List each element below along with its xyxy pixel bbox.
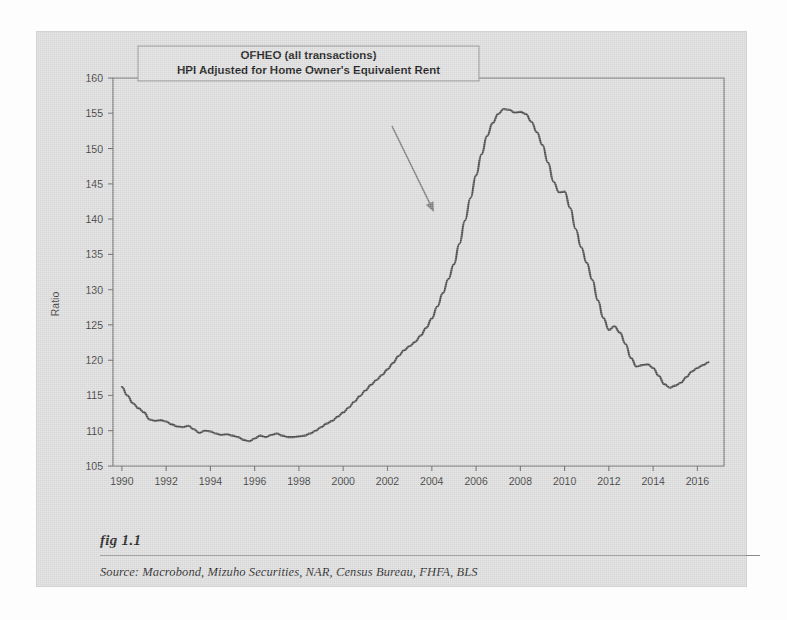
y-tick-label: 150	[85, 143, 103, 155]
figure-caption-block: fig 1.1 Source: Macrobond, Mizuho Securi…	[100, 532, 760, 580]
legend-line-1: OFHEO (all transactions)	[240, 49, 376, 61]
x-tick-label: 1998	[287, 475, 311, 487]
y-tick-label: 160	[85, 72, 103, 84]
axis-frame	[113, 78, 724, 466]
x-tick-label: 2010	[553, 475, 577, 487]
legend-box: OFHEO (all transactions) HPI Adjusted fo…	[138, 46, 479, 81]
x-tick-label: 2000	[332, 475, 356, 487]
figure-number-label: fig 1.1	[100, 532, 760, 549]
series-line-hpi-adjusted	[122, 109, 709, 441]
x-tick-label: 2002	[376, 475, 400, 487]
x-tick-label: 2004	[420, 475, 444, 487]
x-tick-label: 1994	[199, 475, 223, 487]
y-tick-label: 130	[85, 284, 103, 296]
x-tick-label: 1992	[154, 475, 178, 487]
x-tick-label: 2014	[641, 475, 665, 487]
caption-divider	[100, 555, 760, 556]
y-tick-label: 140	[85, 213, 103, 225]
legend-line-2: HPI Adjusted for Home Owner's Equivalent…	[177, 64, 440, 76]
y-tick-label: 135	[85, 248, 103, 260]
annotation-arrow-icon	[392, 126, 430, 204]
y-axis-ticks: 105110115120125130135140145150155160	[85, 72, 113, 472]
y-tick-label: 155	[85, 107, 103, 119]
x-axis-ticks: 1990199219941996199820002002200420062008…	[110, 466, 709, 487]
figure-source-text: Source: Macrobond, Mizuho Securities, NA…	[100, 565, 760, 580]
y-tick-label: 110	[86, 425, 103, 437]
y-tick-label: 120	[85, 354, 103, 366]
chart-axes	[113, 78, 724, 466]
x-tick-label: 1996	[243, 475, 267, 487]
data-series-group	[122, 109, 709, 441]
hpi-ratio-line-chart: 105110115120125130135140145150155160 199…	[37, 32, 746, 586]
scanned-page-panel: 105110115120125130135140145150155160 199…	[37, 32, 746, 586]
y-tick-label: 145	[85, 178, 103, 190]
x-tick-label: 2016	[686, 475, 710, 487]
screenshot-page: 105110115120125130135140145150155160 199…	[0, 0, 787, 620]
y-tick-label: 105	[85, 460, 103, 472]
x-tick-label: 2012	[597, 475, 621, 487]
y-axis-title: Ratio	[49, 292, 61, 317]
annotation-arrow-group	[392, 126, 434, 212]
x-tick-label: 1990	[110, 475, 134, 487]
y-tick-label: 115	[86, 389, 103, 401]
x-tick-label: 2008	[509, 475, 533, 487]
y-tick-label: 125	[85, 319, 103, 331]
x-tick-label: 2006	[464, 475, 488, 487]
